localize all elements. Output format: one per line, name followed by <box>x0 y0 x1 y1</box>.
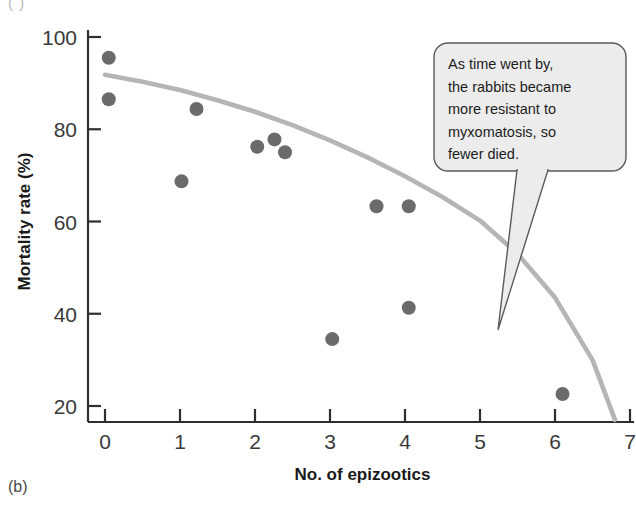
callout-line: the rabbits became <box>448 79 571 95</box>
x-tick-label: 0 <box>99 430 111 453</box>
x-tick-label: 6 <box>549 430 561 453</box>
panel-label: (b) <box>8 478 28 495</box>
y-tick-label: 20 <box>54 395 77 418</box>
x-tick-label: 2 <box>249 430 261 453</box>
x-tick-label: 1 <box>174 430 186 453</box>
callout-line: myxomatosis, so <box>448 124 556 140</box>
callout-line: fewer died. <box>448 146 519 162</box>
y-tick-label: 80 <box>54 118 77 141</box>
data-point <box>268 132 282 146</box>
callout-tail <box>498 170 548 330</box>
callout-annotation: As time went by,the rabbits becamemore r… <box>434 43 626 330</box>
figure-panel: ( ) 2040608010001234567No. of epizootics… <box>0 0 636 512</box>
x-tick-label: 3 <box>324 430 336 453</box>
data-point <box>190 102 204 116</box>
x-axis-title: No. of epizootics <box>295 465 431 484</box>
callout-tail-seam <box>518 167 547 172</box>
y-tick-label: 100 <box>42 26 77 49</box>
callout-line: more resistant to <box>448 101 556 117</box>
y-tick-label: 40 <box>54 303 77 326</box>
data-point <box>402 301 416 315</box>
y-axis-title: Mortality rate (%) <box>15 153 34 291</box>
data-point <box>250 140 264 154</box>
x-tick-label: 5 <box>474 430 486 453</box>
data-point <box>102 51 116 65</box>
data-point <box>325 332 339 346</box>
x-tick-label: 4 <box>399 430 411 453</box>
data-point <box>102 92 116 106</box>
data-point <box>556 387 570 401</box>
scatter-chart: 2040608010001234567No. of epizooticsMort… <box>0 0 636 512</box>
data-point <box>175 174 189 188</box>
data-point <box>402 199 416 213</box>
y-tick-label: 60 <box>54 211 77 234</box>
callout-line: As time went by, <box>448 56 553 72</box>
x-tick-label: 7 <box>624 430 636 453</box>
data-point <box>278 145 292 159</box>
data-point <box>370 199 384 213</box>
